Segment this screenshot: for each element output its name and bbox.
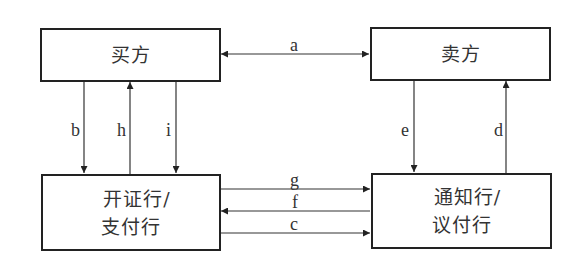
edge-label-b: b <box>71 121 80 139</box>
letter-of-credit-flow-diagram: 买方 卖方 开证行/ 支付行 通知行/ 议付行 a b h i e d g f … <box>0 0 582 266</box>
issuing-bank-label-line1: 开证行/ <box>91 185 170 213</box>
buyer-label: 买方 <box>111 41 151 69</box>
edge-label-d: d <box>494 121 503 139</box>
edge-label-f: f <box>292 193 298 211</box>
issuing-bank-node: 开证行/ 支付行 <box>41 174 221 251</box>
edge-label-h: h <box>117 121 126 139</box>
edge-label-i: i <box>166 121 171 139</box>
edge-label-e: e <box>401 121 409 139</box>
advising-bank-label-line1: 通知行/ <box>422 183 501 211</box>
seller-label: 卖方 <box>441 40 481 68</box>
advising-bank-node: 通知行/ 议付行 <box>371 173 552 249</box>
buyer-node: 买方 <box>40 28 221 82</box>
edge-label-c: c <box>290 215 298 233</box>
advising-bank-label-line2: 议付行 <box>432 211 492 239</box>
edge-label-g: g <box>290 171 299 189</box>
edge-label-a: a <box>290 36 298 54</box>
issuing-bank-label-line2: 支付行 <box>101 213 161 241</box>
seller-node: 卖方 <box>370 27 551 81</box>
